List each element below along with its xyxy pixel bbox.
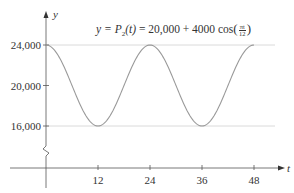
y-tick-label: 20,000	[11, 80, 42, 92]
cosine-curve	[46, 45, 254, 126]
fraction-denominator: 12	[239, 31, 246, 37]
x-tick-label: 12	[93, 174, 104, 186]
x-axis-label: t	[287, 162, 291, 174]
y-axis-label: y	[52, 8, 58, 20]
x-axis-arrow-icon	[278, 166, 285, 171]
formula-rhs: = 20,000 + 4000 cos	[136, 23, 233, 35]
y-tick-label: 16,000	[11, 120, 42, 132]
formula-arg: (t)	[125, 23, 136, 35]
y-axis-arrow-icon	[44, 11, 49, 18]
formula-func: P	[115, 23, 122, 35]
x-tick-label: 24	[145, 174, 157, 186]
formula-label: y = P2(t) = 20,000 + 4000 cos(πt12)	[96, 22, 251, 41]
formula-fraction: πt12	[239, 24, 246, 37]
series-line	[46, 45, 254, 126]
x-tick-label: 48	[249, 174, 261, 186]
y-tick-label: 24,000	[11, 39, 42, 51]
formula-y: y =	[96, 23, 115, 35]
axis-break-icon	[43, 146, 49, 156]
x-tick-label: 36	[197, 174, 209, 186]
